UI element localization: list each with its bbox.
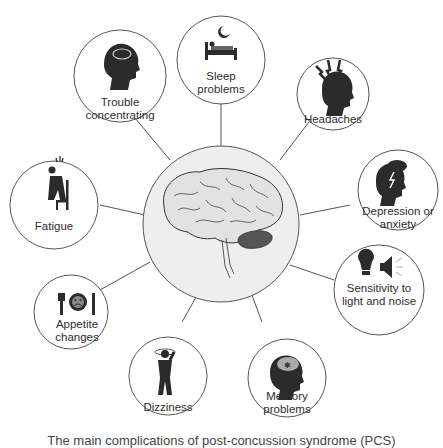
- label-headaches: Headaches: [304, 113, 362, 126]
- label-dizziness: Dizziness: [143, 401, 192, 414]
- center-brain-node: [143, 146, 299, 302]
- label-sleep-problems: Sleep problems: [197, 70, 244, 96]
- label-memory-problems: Memory problems: [263, 390, 310, 416]
- label-sensitivity-light-noise: Sensitivity to light and noise: [342, 282, 416, 308]
- label-depression-anxiety: Depression or anxiety: [362, 205, 434, 231]
- label-trouble-concentrating: Trouble concentrating: [85, 96, 154, 122]
- label-appetite-changes: Appetite changes: [55, 318, 98, 344]
- svg-text:✱: ✱: [284, 361, 291, 370]
- figure-caption: The main complications of post-concussio…: [0, 433, 443, 448]
- label-fatigue: Fatigue: [35, 220, 73, 233]
